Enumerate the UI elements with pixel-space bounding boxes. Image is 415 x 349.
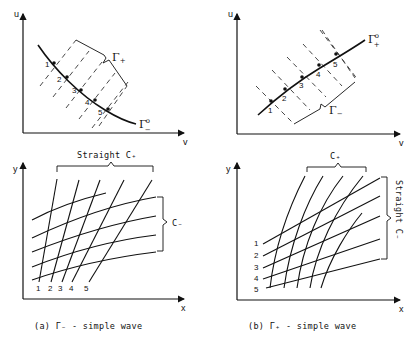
panel-a-hodograph: u v Γ+ Γo− 1 2 3 4 5 (14, 9, 188, 147)
y-axis-label: y (13, 164, 18, 174)
state-points (52, 61, 110, 111)
c-minus-label-1: 1 (254, 239, 259, 248)
c-minus-label: C₋ (172, 218, 183, 228)
u-axis-label: u (14, 9, 19, 19)
y-axis-label-b: y (226, 164, 231, 174)
c-minus-label-5: 5 (254, 285, 259, 294)
point-label-b-4: 4 (316, 70, 321, 79)
panel-a-physical-plane: y x Straight C₊ C₋ 1 2 3 4 5 (a) Γ₋ - si (13, 150, 186, 331)
c-plus-label-4: 4 (69, 284, 74, 293)
point-label-2: 2 (57, 75, 62, 84)
straight-c-minus-lines (263, 178, 380, 288)
point-label-b-1: 1 (268, 106, 273, 115)
c-plus-label: C₊ (330, 151, 341, 161)
c-minus-curves (32, 193, 156, 280)
c-minus-label-4: 4 (254, 274, 259, 283)
straight-c-plus-label: Straight C₊ (77, 150, 137, 160)
v-axis-label-b: v (399, 138, 404, 148)
c-plus-label-3: 3 (58, 284, 63, 293)
point-label-1: 1 (45, 60, 50, 69)
simple-wave-figure: u v Γ+ Γo− 1 2 3 4 5 y x (0, 0, 415, 349)
panel-b-hodograph: u v Γ− Γo+ 1 2 3 4 5 (228, 9, 404, 148)
caption-b: (b) Γ₊ - simple wave (248, 321, 356, 331)
point-label-b-3: 3 (299, 81, 304, 90)
straight-c-minus-bracket (381, 177, 391, 259)
panel-b-physical-plane: y x C₊ Straight C₋ 1 2 3 4 5 (b) Γ₊ - si (226, 151, 404, 331)
point-label-3: 3 (72, 86, 77, 95)
c-plus-bracket (307, 163, 366, 172)
point-label-b-2: 2 (282, 94, 287, 103)
x-axis-label-b: x (399, 304, 404, 314)
c-minus-label-3: 3 (254, 263, 259, 272)
c-plus-label-2: 2 (48, 284, 53, 293)
straight-c-plus-bracket (57, 162, 153, 172)
gamma-minus-zero-label: Γo− (139, 117, 151, 134)
point-label-b-5: 5 (333, 60, 338, 69)
caption-a: (a) Γ₋ - simple wave (34, 321, 142, 331)
point-label-4: 4 (85, 98, 90, 107)
c-minus-bracket (157, 197, 167, 251)
x-axis-label: x (181, 303, 186, 313)
c-minus-label-2: 2 (254, 251, 259, 260)
c-plus-label-5: 5 (84, 284, 89, 293)
point-label-5: 5 (98, 108, 103, 117)
gamma-plus-label: Γ+ (112, 51, 126, 65)
u-axis-label-b: u (228, 9, 233, 19)
straight-c-minus-label: Straight C₋ (394, 180, 404, 240)
gamma-plus-zero-curve (258, 40, 365, 115)
c-plus-label-1: 1 (36, 284, 41, 293)
gamma-plus-zero-label: Γo+ (368, 32, 380, 49)
v-axis-label: v (183, 137, 188, 147)
gamma-minus-label: Γ− (329, 104, 343, 118)
